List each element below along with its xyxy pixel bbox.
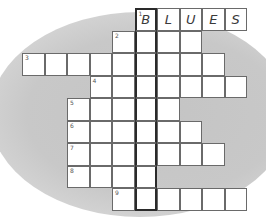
crossword-cell[interactable] <box>180 188 203 211</box>
crossword-cell[interactable]: 3 <box>22 53 45 76</box>
crossword-cell[interactable] <box>112 121 135 144</box>
crossword-cell[interactable]: 2 <box>112 31 135 54</box>
cell-letter <box>203 54 224 75</box>
crossword-cell[interactable]: 9 <box>112 188 135 211</box>
crossword-cell[interactable] <box>135 98 158 121</box>
cell-letter <box>158 144 179 165</box>
crossword-cell[interactable] <box>225 76 248 99</box>
crossword-cell[interactable] <box>157 53 180 76</box>
cell-letter: L <box>158 9 179 30</box>
cell-letter <box>158 77 179 98</box>
cell-letter <box>158 32 179 53</box>
crossword-cell[interactable] <box>157 76 180 99</box>
crossword-cell[interactable]: 4 <box>90 76 113 99</box>
crossword-cell[interactable] <box>180 76 203 99</box>
cell-letter <box>203 144 224 165</box>
cell-letter <box>203 189 224 210</box>
cell-letter <box>68 144 89 165</box>
crossword-cell[interactable] <box>135 31 158 54</box>
cell-letter <box>113 122 134 143</box>
crossword-cell[interactable] <box>180 53 203 76</box>
cell-letter <box>181 32 202 53</box>
crossword-cell[interactable] <box>202 188 225 211</box>
crossword-cell[interactable]: L <box>157 8 180 31</box>
crossword-cell[interactable] <box>90 53 113 76</box>
crossword-cell[interactable] <box>112 98 135 121</box>
crossword-cell[interactable] <box>67 53 90 76</box>
cell-letter <box>91 54 112 75</box>
cell-letter <box>181 54 202 75</box>
cell-letter <box>23 54 44 75</box>
cell-letter <box>158 99 179 120</box>
crossword-cell[interactable]: E <box>202 8 225 31</box>
crossword-cell[interactable] <box>90 121 113 144</box>
crossword-cell[interactable]: S <box>225 8 248 31</box>
cell-letter <box>113 99 134 120</box>
crossword-cell[interactable] <box>135 143 158 166</box>
crossword-cell[interactable]: 1B <box>135 8 158 31</box>
crossword-cell[interactable] <box>157 121 180 144</box>
cell-letter <box>158 189 179 210</box>
crossword-cell[interactable] <box>157 98 180 121</box>
crossword-cell[interactable] <box>202 76 225 99</box>
cell-letter <box>158 54 179 75</box>
crossword-cell[interactable] <box>112 76 135 99</box>
cell-letter <box>68 122 89 143</box>
cell-letter <box>91 167 112 188</box>
cell-letter <box>113 77 134 98</box>
cell-letter: U <box>181 9 202 30</box>
crossword-cell[interactable] <box>157 188 180 211</box>
crossword-cell[interactable] <box>90 143 113 166</box>
cell-letter <box>137 99 156 120</box>
cell-letter: B <box>137 10 156 30</box>
crossword-cell[interactable] <box>45 53 68 76</box>
cell-letter <box>203 77 224 98</box>
crossword-cell[interactable]: 7 <box>67 143 90 166</box>
cell-letter <box>91 144 112 165</box>
cell-letter: S <box>226 9 247 30</box>
cell-letter <box>137 122 156 143</box>
cell-letter <box>137 144 156 165</box>
cell-letter <box>181 122 202 143</box>
cell-letter <box>46 54 67 75</box>
cell-letter <box>113 167 134 188</box>
cell-letter <box>68 54 89 75</box>
cell-letter <box>68 99 89 120</box>
crossword-cell[interactable] <box>135 166 158 189</box>
cell-letter <box>137 189 156 209</box>
cell-letter <box>113 32 134 53</box>
cell-letter <box>137 167 156 188</box>
crossword-cell[interactable]: 5 <box>67 98 90 121</box>
crossword-cell[interactable] <box>90 98 113 121</box>
crossword-cell[interactable] <box>90 166 113 189</box>
crossword-cell[interactable] <box>202 53 225 76</box>
crossword-cell[interactable] <box>202 143 225 166</box>
cell-letter <box>226 189 247 210</box>
cell-letter <box>113 144 134 165</box>
crossword-cell[interactable]: U <box>180 8 203 31</box>
crossword-cell[interactable]: 8 <box>67 166 90 189</box>
crossword-cell[interactable] <box>157 143 180 166</box>
cell-letter <box>181 77 202 98</box>
cell-letter <box>91 122 112 143</box>
crossword-cell[interactable] <box>225 188 248 211</box>
cell-letter <box>91 77 112 98</box>
crossword-cell[interactable]: 6 <box>67 121 90 144</box>
crossword-cell[interactable] <box>135 53 158 76</box>
crossword-cell[interactable] <box>135 76 158 99</box>
crossword-cell[interactable] <box>180 121 203 144</box>
cell-letter <box>113 54 134 75</box>
crossword-cell[interactable] <box>112 143 135 166</box>
cell-letter <box>181 144 202 165</box>
crossword-cell[interactable] <box>180 143 203 166</box>
cell-letter <box>137 54 156 75</box>
crossword-cell[interactable] <box>135 188 158 211</box>
crossword-cell[interactable] <box>180 31 203 54</box>
crossword-cell[interactable] <box>112 53 135 76</box>
crossword-cell[interactable] <box>157 31 180 54</box>
crossword-cell[interactable] <box>135 121 158 144</box>
cell-letter: E <box>203 9 224 30</box>
cell-letter <box>91 99 112 120</box>
cell-letter <box>113 189 134 210</box>
crossword-cell[interactable] <box>112 166 135 189</box>
